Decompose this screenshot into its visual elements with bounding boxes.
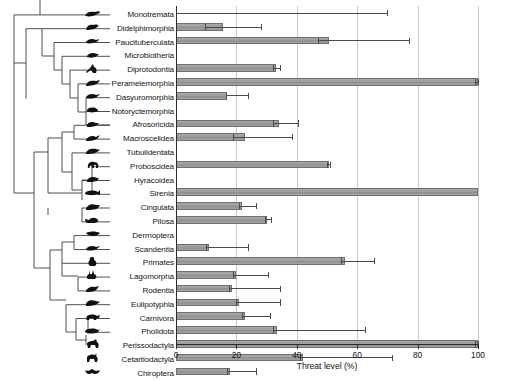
aardvark-icon [84,145,101,156]
tip-label-scandentia: Scandentia [54,243,174,257]
bar-row [176,185,478,199]
elephant-icon [84,159,101,170]
error-bar-lagomorpha [233,275,268,276]
error-cap-upper [280,299,281,305]
bar-row [176,20,478,34]
bar-rodentia [176,285,232,293]
tip-label-notoryctemorphia: Notoryctemorphia [54,105,174,119]
error-cap-lower [229,286,230,292]
error-bar-cingulata [239,206,256,207]
x-tick-label-60: 60 [337,350,377,360]
bar-scandentia [176,244,209,252]
tip-label-microbiotheria: Microbiotheria [54,49,174,63]
bar-row [176,254,478,268]
bar-row [176,116,478,130]
opossum-icon [84,21,101,32]
error-cap-upper [374,258,375,264]
error-bar-eulipotyphla [236,302,280,303]
tip-label-didelphimorphia: Didelphimorphia [54,22,174,36]
bar-row [176,61,478,75]
error-cap-lower [236,299,237,305]
bar-row [176,48,478,62]
bar-row [176,296,478,310]
x-tick-60 [357,345,358,349]
armadillo-icon [84,201,101,212]
tip-label-peramelemorphia: Peramelemorphia [54,77,174,91]
error-cap-upper [365,327,366,333]
tip-label-eulipotyphla: Eulipotyphla [54,298,174,312]
x-tick-label-0: 0 [156,350,196,360]
tip-label-macroscelidea: Macroscelidea [54,132,174,146]
error-cap-lower [226,93,227,99]
horse-icon [84,338,101,349]
error-bar-pholidota [273,330,365,331]
rabbit-icon [84,269,101,280]
platypus-icon [84,8,101,19]
x-tick-label-80: 80 [398,350,438,360]
error-cap-upper [298,120,299,126]
error-bar-scandentia [206,247,248,248]
tip-label-rodentia: Rodentia [54,284,174,298]
x-tick-100 [478,345,479,349]
bar-carnivora [176,312,245,320]
x-tick-40 [297,345,298,349]
marsupial-mole-icon [84,104,101,115]
error-cap-lower [205,24,206,30]
tip-label-hyracoidea: Hyracoidea [54,174,174,188]
bar-sirenia [176,188,478,196]
tip-label-dermoptera: Dermoptera [54,229,174,243]
tip-label-lagomorpha: Lagomorpha [54,270,174,284]
tip-label-sirenia: Sirenia [54,187,174,201]
error-cap-upper [256,203,257,209]
bar-row [176,309,478,323]
kangaroo-icon [84,63,101,74]
x-tick-80 [418,345,419,349]
y-axis-line [176,6,177,345]
tip-label-primates: Primates [54,256,174,270]
error-cap-upper [271,217,272,223]
tenrec-icon [84,118,101,129]
error-bar-diprotodontia [273,68,281,69]
bar-lagomorpha [176,271,236,279]
bar-row [176,268,478,282]
error-cap-lower [318,38,319,44]
quoll-icon [84,90,101,101]
hyrax-icon [84,173,101,184]
bandicoot-icon [84,77,101,88]
error-cap-upper [292,134,293,140]
error-bar-chiroptera [227,371,256,372]
gridline-100 [478,6,479,344]
bar-cingulata [176,202,242,210]
error-cap-lower [341,258,342,264]
bar-row [176,158,478,172]
bar-afrosoricida [176,120,279,128]
error-bar-primates [341,261,374,262]
treeshrew-icon [84,242,101,253]
bar-row [176,103,478,117]
bar-row [176,6,478,20]
error-bar-paucituberculata [318,40,409,41]
error-cap-lower [206,244,207,250]
bar-eulipotyphla [176,299,239,307]
error-bar-afrosoricida [273,123,299,124]
error-cap-lower [233,134,234,140]
bar-row [176,172,478,186]
error-cap-upper [248,244,249,250]
anteater-icon [84,214,101,225]
colugo-icon [84,228,101,239]
error-cap-lower [475,79,476,85]
bar-pilosa [176,216,267,224]
error-cap-upper [478,79,479,85]
bar-proboscidea [176,161,329,169]
monito-del-monte-icon [84,49,101,60]
tip-label-cingulata: Cingulata [54,201,174,215]
error-cap-upper [270,313,271,319]
bar-row [176,213,478,227]
x-tick-0 [176,345,177,349]
error-cap-lower [233,272,234,278]
error-cap-lower [242,313,243,319]
tip-label-monotremata: Monotremata [54,8,174,22]
bar-row [176,240,478,254]
elephant-shrew-icon [84,132,101,143]
